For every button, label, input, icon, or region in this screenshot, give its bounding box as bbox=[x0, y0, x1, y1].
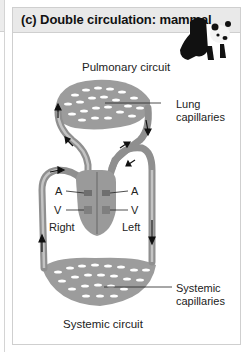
left-side-label: Left bbox=[122, 221, 140, 234]
pulmonary-circuit-label: Pulmonary circuit bbox=[82, 61, 170, 74]
right-atrium bbox=[84, 190, 92, 196]
lung-capillaries-bed bbox=[55, 80, 150, 130]
right-side-label: Right bbox=[49, 221, 75, 234]
left-ventricle bbox=[102, 206, 110, 214]
panda-icon bbox=[180, 17, 231, 60]
systemic-circuit-label: Systemic circuit bbox=[63, 318, 143, 331]
left-atrium-label: A bbox=[131, 185, 138, 198]
right-atrium-label: A bbox=[55, 185, 62, 198]
lung-capillaries-label-line2: capillaries bbox=[176, 111, 225, 124]
left-ventricle-label: V bbox=[131, 204, 138, 217]
systemic-capillaries-label-line2: capillaries bbox=[176, 295, 225, 308]
systemic-capillaries-label-line1: Systemic bbox=[176, 282, 221, 295]
systemic-capillaries-bed bbox=[42, 258, 156, 306]
heart bbox=[76, 170, 116, 236]
right-ventricle bbox=[84, 206, 92, 214]
right-ventricle-label: V bbox=[54, 204, 61, 217]
lung-capillaries-label-line1: Lung bbox=[176, 98, 200, 111]
left-atrium bbox=[102, 190, 110, 196]
